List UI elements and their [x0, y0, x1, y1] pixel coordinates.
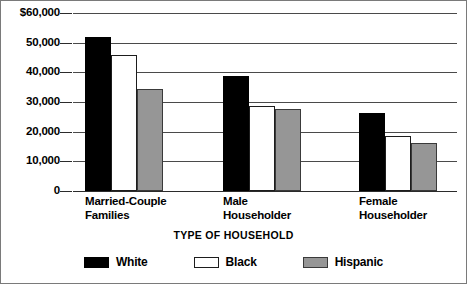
bar-hispanic-2: [275, 109, 301, 191]
y-axis-tick-mark: [60, 13, 72, 14]
legend-label: White: [116, 255, 148, 269]
legend-label: Black: [226, 255, 257, 269]
chart-legend: WhiteBlackHispanic: [1, 255, 466, 269]
category-label-line: Married-Couple: [85, 195, 167, 209]
plot-area: [73, 13, 457, 191]
y-axis-tick-label: 40,000: [26, 67, 60, 79]
y-axis-tick-labels: $60,00050,00040,00030,00020,00010,0000: [1, 1, 60, 284]
x-axis-title: TYPE OF HOUSEHOLD: [1, 229, 466, 241]
y-axis-tick-mark: [60, 102, 72, 103]
y-axis-tick-mark: [60, 72, 72, 73]
bar-black-1: [111, 55, 137, 191]
y-axis-tick-label: 10,000: [26, 156, 60, 168]
y-axis-tick-mark: [60, 161, 72, 162]
category-label-line: Families: [85, 209, 167, 223]
gray-filled-swatch-icon: [303, 257, 328, 268]
y-axis-tick-mark: [60, 132, 72, 133]
category-label-3: FemaleHouseholder: [359, 195, 427, 222]
gridline: [73, 43, 457, 44]
bar-black-2: [249, 106, 275, 191]
bar-white-1: [85, 37, 111, 191]
gridline: [73, 13, 457, 14]
legend-item-hispanic: Hispanic: [303, 255, 383, 269]
bar-white-3: [359, 113, 385, 191]
category-label-1: Married-CoupleFamilies: [85, 195, 167, 222]
white-outline-swatch-icon: [194, 257, 219, 268]
bar-white-2: [223, 76, 249, 191]
bar-hispanic-1: [137, 89, 163, 191]
bar-chart-figure: $60,00050,00040,00030,00020,00010,0000 M…: [0, 0, 467, 284]
bar-hispanic-3: [411, 143, 437, 191]
category-label-2: MaleHouseholder: [223, 195, 291, 222]
y-axis-tick-label: 30,000: [26, 96, 60, 108]
category-label-line: Householder: [223, 209, 291, 223]
y-axis-tick-label: $60,000: [20, 7, 60, 19]
y-axis-tick-mark: [60, 191, 72, 192]
y-axis-tick-label: 20,000: [26, 126, 60, 138]
category-label-line: Male: [223, 195, 291, 209]
bar-black-3: [385, 136, 411, 191]
black-filled-swatch-icon: [84, 257, 109, 268]
y-axis-tick-mark: [60, 43, 72, 44]
gridline: [73, 191, 457, 192]
legend-item-white: White: [84, 255, 148, 269]
category-label-line: Householder: [359, 209, 427, 223]
category-label-line: Female: [359, 195, 427, 209]
legend-item-black: Black: [194, 255, 257, 269]
y-axis-tick-label: 50,000: [26, 37, 60, 49]
legend-label: Hispanic: [335, 255, 383, 269]
